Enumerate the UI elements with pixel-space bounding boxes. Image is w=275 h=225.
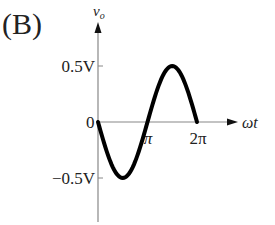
y-tick-label-pos: 0.5V	[61, 57, 95, 76]
x-axis-arrow-icon	[227, 119, 238, 126]
waveform-diagram: (B) vo ωt 0.5V −0.5V 0 π 2π	[0, 0, 275, 225]
y-axis-arrow-icon	[95, 22, 102, 33]
x-tick-label-2pi: 2π	[189, 129, 207, 148]
panel-label: (B)	[2, 7, 42, 41]
y-tick-label-neg: −0.5V	[52, 169, 96, 188]
y-axis-label: vo	[93, 3, 105, 21]
x-axis-label: ωt	[242, 114, 258, 131]
origin-label: 0	[86, 113, 95, 132]
